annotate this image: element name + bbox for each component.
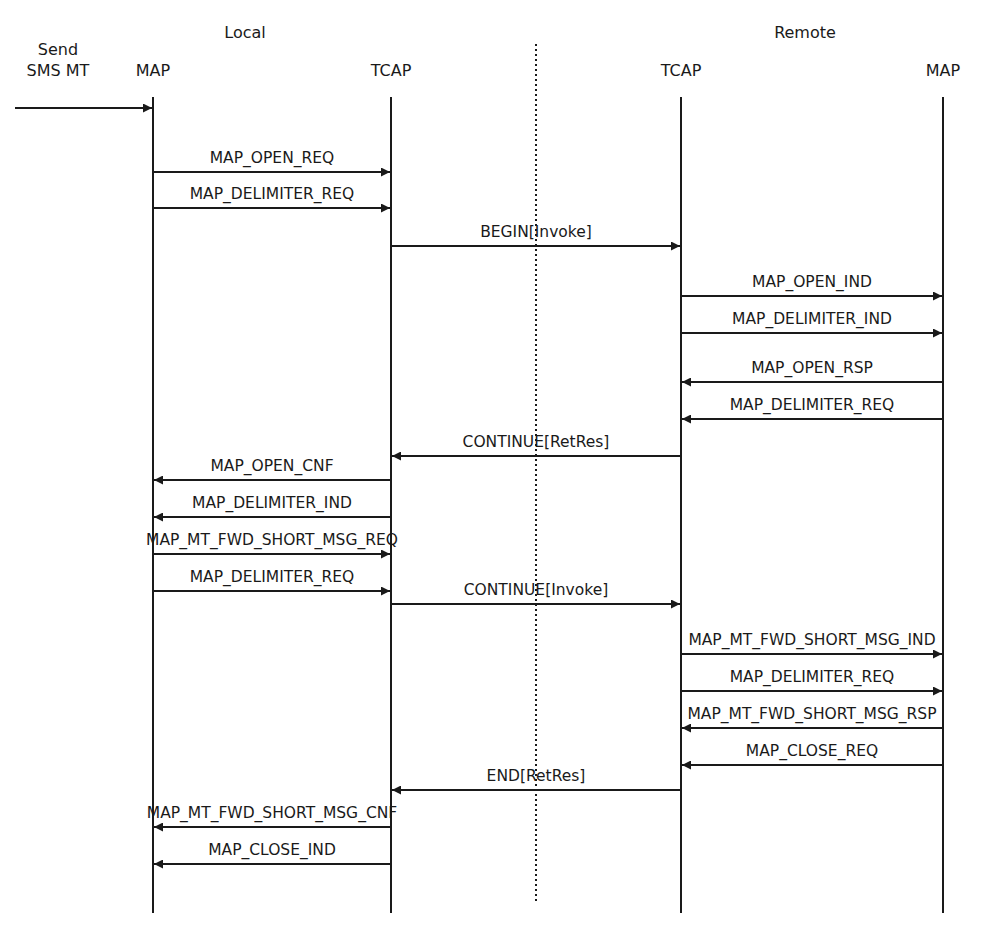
group-label-local: Local (224, 23, 265, 42)
trigger-label-line2: SMS MT (27, 61, 90, 80)
participant-remote-tcap: TCAP (660, 61, 702, 80)
message-label: MAP_OPEN_RSP (751, 359, 873, 378)
message-label: MAP_DELIMITER_REQ (730, 396, 895, 415)
message-label: MAP_OPEN_CNF (210, 457, 333, 476)
sequence-diagram: Local Remote Send SMS MT MAP TCAP TCAP M… (0, 0, 987, 929)
message-label: MAP_OPEN_REQ (210, 149, 335, 168)
message-label: MAP_DELIMITER_IND (732, 310, 892, 329)
participant-local-tcap: TCAP (370, 61, 412, 80)
group-label-remote: Remote (774, 23, 836, 42)
participant-remote-map: MAP (926, 61, 961, 80)
message-label: MAP_DELIMITER_REQ (730, 668, 895, 687)
message-label: MAP_MT_FWD_SHORT_MSG_IND (688, 631, 935, 650)
message-label: MAP_DELIMITER_IND (192, 494, 352, 513)
message-label: MAP_OPEN_IND (752, 273, 872, 292)
messages-group: MAP_OPEN_REQMAP_DELIMITER_REQBEGIN[Invok… (146, 149, 943, 864)
message-label: MAP_MT_FWD_SHORT_MSG_REQ (146, 531, 398, 550)
message-label: BEGIN[Invoke] (480, 223, 592, 241)
message-label: MAP_MT_FWD_SHORT_MSG_CNF (147, 804, 398, 823)
participant-local-map: MAP (136, 61, 171, 80)
message-label: MAP_CLOSE_REQ (746, 742, 878, 761)
message-label: CONTINUE[Invoke] (464, 581, 609, 599)
message-label: MAP_DELIMITER_REQ (190, 568, 355, 587)
message-label: MAP_MT_FWD_SHORT_MSG_RSP (687, 705, 936, 724)
trigger-label-line1: Send (38, 40, 78, 59)
message-label: MAP_DELIMITER_REQ (190, 185, 355, 204)
message-label: MAP_CLOSE_IND (208, 841, 336, 860)
message-label: CONTINUE[RetRes] (463, 433, 610, 451)
message-label: END[RetRes] (487, 767, 586, 785)
